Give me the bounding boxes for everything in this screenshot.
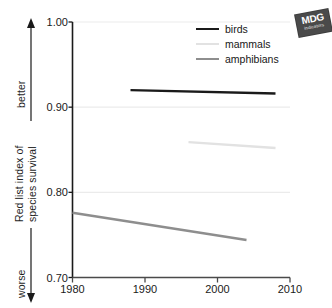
y-tick-label-text: 0.80 xyxy=(38,186,68,198)
series-line-mammals xyxy=(189,142,276,148)
x-tick-label: 2010 xyxy=(270,283,310,295)
legend-label-birds: birds xyxy=(225,22,248,36)
legend-item-mammals[interactable]: mammals xyxy=(196,37,292,51)
legend: birds mammals amphibians xyxy=(196,22,292,67)
y-tick-label-text: 0.70 xyxy=(38,272,68,284)
x-tick-label: 2000 xyxy=(198,283,238,295)
y-tick-label-text: 1.00 xyxy=(38,16,68,28)
series-line-birds xyxy=(131,90,276,93)
x-tick-marks xyxy=(73,278,291,283)
data-series-lines xyxy=(73,90,276,240)
legend-swatch-amphibians xyxy=(196,58,219,60)
legend-swatch-birds xyxy=(196,28,219,30)
y-tick-label: 0.70 xyxy=(38,272,68,284)
legend-label-mammals: mammals xyxy=(225,37,271,51)
y-tick-label: 0.90 xyxy=(38,101,68,113)
y-tick-label-text: 0.90 xyxy=(38,101,68,113)
x-tick-label: 1990 xyxy=(125,283,165,295)
legend-item-amphibians[interactable]: amphibians xyxy=(196,52,292,66)
y-tick-label: 0.80 xyxy=(38,186,68,198)
series-line-amphibians xyxy=(73,213,247,240)
red-list-index-chart: better worse Red list index of species s… xyxy=(0,0,332,308)
legend-item-birds[interactable]: birds xyxy=(196,22,292,36)
x-tick-label: 1980 xyxy=(53,283,93,295)
legend-label-amphibians: amphibians xyxy=(225,52,279,66)
legend-swatch-mammals xyxy=(196,43,219,45)
y-tick-label: 1.00 xyxy=(38,16,68,28)
